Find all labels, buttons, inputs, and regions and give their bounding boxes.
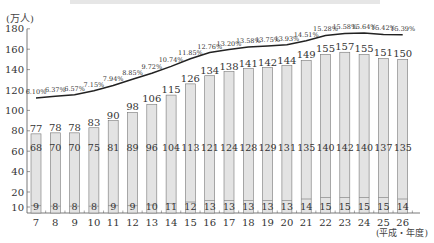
bar-lower-label: 13: [204, 201, 216, 212]
bar-upper-label: 140: [355, 142, 373, 153]
bar-upper-label: 70: [49, 142, 61, 153]
bar-upper-label: 124: [220, 142, 238, 153]
bar: [340, 52, 350, 213]
bar-total-label: 138: [219, 61, 238, 72]
x-tick-label: 12: [126, 217, 139, 228]
bar-lower-label: 13: [242, 201, 254, 212]
bar-upper-label: 131: [278, 142, 296, 153]
bar-upper-label: 104: [162, 142, 180, 153]
bar-upper-label: 113: [181, 142, 199, 153]
bar: [128, 112, 138, 213]
bar-upper-label: 135: [297, 142, 315, 153]
bar-lower-label: 10: [146, 201, 158, 212]
y-tick-label: 100: [5, 105, 24, 116]
bar: [108, 121, 118, 213]
bar-lower-label: 14: [300, 201, 312, 212]
y-tick-label: 120: [5, 85, 24, 96]
x-tick-label: 13: [145, 217, 158, 228]
bar-total-label: 151: [374, 47, 393, 58]
bar-total-label: 157: [335, 41, 354, 52]
ratio-label: 7.15%: [84, 81, 105, 89]
bar-total-label: 98: [126, 101, 139, 112]
bar-total-label: 106: [142, 93, 161, 104]
bar: [378, 58, 388, 213]
bar-total-label: 126: [181, 73, 200, 84]
x-tick-label: 16: [203, 217, 216, 228]
bar: [243, 69, 253, 213]
bar: [147, 104, 157, 213]
ratio-label: 15.39%: [390, 25, 415, 33]
x-tick-label: 7: [33, 217, 39, 228]
x-tick-label: 17: [223, 217, 236, 228]
x-tick-label: 11: [107, 217, 120, 228]
bar: [321, 54, 331, 213]
y-tick-label: 80: [11, 125, 24, 136]
bar-upper-label: 89: [126, 142, 138, 153]
bar-lower-label: 13: [262, 201, 274, 212]
ratio-label: 6.37%: [45, 86, 66, 94]
bar-upper-label: 75: [88, 142, 100, 153]
ratio-label: 8.85%: [122, 69, 143, 77]
y-tick-label: 160: [5, 44, 24, 55]
bar-upper-label: 129: [259, 142, 277, 153]
x-tick-label: 14: [165, 217, 178, 228]
x-tick-label: 26: [396, 217, 409, 228]
bar-total-label: 77: [30, 123, 43, 134]
x-tick-label: 9: [71, 217, 77, 228]
ratio-label: 7.94%: [103, 75, 124, 83]
x-tick-label: 22: [319, 217, 332, 228]
bar-upper-label: 68: [30, 142, 42, 153]
bar-lower-label: 15: [377, 201, 389, 212]
bar-lower-label: 13: [223, 201, 235, 212]
bar: [398, 59, 408, 213]
ratio-label: 6.10%: [26, 88, 47, 96]
y-tick-label: 180: [5, 23, 24, 34]
bar: [359, 54, 369, 213]
ratio-label: 9.72%: [141, 63, 162, 71]
y-tick-label: 20: [11, 187, 24, 198]
bar-total-label: 150: [393, 48, 412, 59]
bar-total-label: 141: [239, 58, 258, 69]
bar-lower-label: 15: [339, 201, 351, 212]
y-tick-label: 140: [5, 64, 24, 75]
bar: [282, 66, 292, 213]
ratio-label: 6.57%: [64, 85, 85, 93]
x-tick-label: 10: [88, 217, 101, 228]
bar-lower-label: 11: [165, 201, 177, 212]
bar-upper-label: 142: [336, 142, 354, 153]
bar-total-label: 115: [162, 84, 181, 95]
bar-lower-label: 9: [33, 201, 39, 212]
bar-upper-label: 96: [146, 142, 158, 153]
bar-lower-label: 8: [91, 201, 97, 212]
bar: [263, 68, 273, 213]
x-tick-label: 19: [261, 217, 274, 228]
bar-lower-label: 9: [129, 201, 135, 212]
bar-upper-label: 81: [107, 142, 119, 153]
bar-total-label: 142: [258, 57, 277, 68]
bar-total-label: 83: [88, 117, 101, 128]
y-tick-label: 60: [11, 146, 24, 157]
bar-lower-label: 12: [184, 201, 196, 212]
bar: [301, 60, 311, 213]
bar-lower-label: 15: [319, 201, 331, 212]
x-tick-label: 21: [300, 217, 313, 228]
bar-upper-label: 70: [69, 142, 81, 153]
bar-lower-label: 13: [281, 201, 293, 212]
x-tick-label: 18: [242, 217, 255, 228]
bar-lower-label: 8: [52, 201, 58, 212]
bar-total-label: 78: [68, 122, 81, 133]
bar-total-label: 90: [107, 110, 120, 121]
y-tick-label: 10: [11, 202, 24, 213]
bar-total-label: 144: [277, 55, 296, 66]
x-tick-label: 25: [377, 217, 390, 228]
bar-upper-label: 135: [394, 142, 412, 153]
bar-upper-label: 140: [316, 142, 334, 153]
bar-lower-label: 15: [358, 201, 370, 212]
bar-upper-label: 121: [201, 142, 219, 153]
bar-total-label: 78: [49, 122, 62, 133]
y-tick-label: 40: [11, 166, 24, 177]
x-tick-label: 20: [281, 217, 294, 228]
bar-lower-label: 9: [110, 201, 116, 212]
ratio-label: 10.74%: [159, 56, 184, 64]
x-tick-label: 8: [52, 217, 58, 228]
